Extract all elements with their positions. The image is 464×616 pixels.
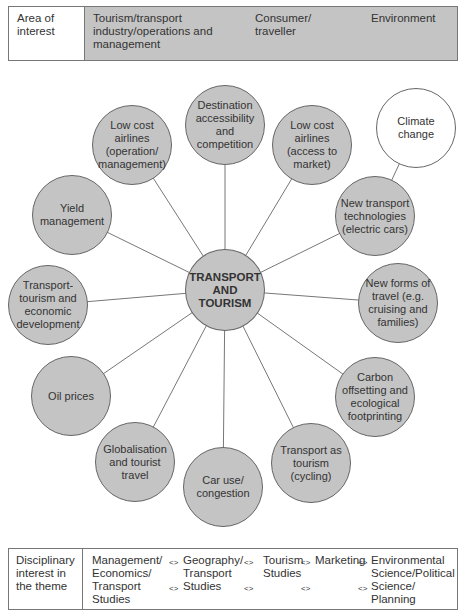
node-carbon-offsetting: Carbon offsetting and ecological footpri… <box>335 357 415 437</box>
double-arrow-icon: <> <box>358 556 367 569</box>
node-globalisation: Globalisation and tourist travel <box>95 422 175 502</box>
double-arrow-icon: <> <box>301 582 310 595</box>
discipline-environmental: Environmental Science/Political Science/… <box>371 554 457 606</box>
node-car-use: Car use/ congestion <box>183 447 263 527</box>
node-destination: Destination accessibility and competitio… <box>185 85 265 165</box>
double-arrow-icon: <> <box>169 582 178 595</box>
node-economic-development: Transport-tourism and economic developme… <box>8 265 88 345</box>
discipline-management: Management/ Economics/ Transport Studies <box>92 554 172 606</box>
double-arrow-icon: <> <box>244 582 253 595</box>
node-oil-prices: Oil prices <box>31 356 111 436</box>
double-arrow-icon: <> <box>244 556 253 569</box>
double-arrow-icon: <> <box>169 556 178 569</box>
disciplinary-interest-label: Disciplinary interest in the theme <box>9 549 83 609</box>
node-lowcost-operation: Low cost airlines (operation/ management… <box>92 105 172 185</box>
node-climate-change: Climate change <box>376 88 456 168</box>
node-new-transport-tech: New transport technologies (electric car… <box>335 176 415 256</box>
double-arrow-icon: <> <box>358 582 367 595</box>
discipline-geography: Geography/ Transport Studies <box>183 554 251 593</box>
center-node-transport-tourism: TRANSPORT AND TOURISM <box>185 249 265 331</box>
node-yield-management: Yield management <box>32 175 112 255</box>
double-arrow-icon: <> <box>301 556 310 569</box>
node-lowcost-access: Low cost airlines (access to market) <box>272 105 352 185</box>
node-transport-as-tourism: Transport as tourism (cycling) <box>271 423 351 503</box>
node-new-forms-travel: New forms of travel (e.g. cruising and f… <box>358 263 438 343</box>
disciplinary-interest-row: Disciplinary interest in the theme Manag… <box>8 548 458 610</box>
disciplinary-cells: Management/ Economics/ Transport Studies… <box>83 549 457 609</box>
